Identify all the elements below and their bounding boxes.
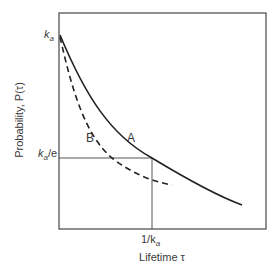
plot-frame [59,13,266,229]
curve-a-label: A [127,131,135,145]
y-tick-ka: ka [44,28,55,43]
x-axis-title: Lifetime τ [139,251,186,263]
curve-b [60,37,172,185]
x-tick-1-over-ka: 1/ka [141,233,161,248]
curve-a [60,35,242,205]
y-tick-ka-over-e: ka/e [38,147,57,162]
y-axis-title: Probability, P(τ) [13,82,25,158]
chart: A B ka ka/e 1/ka Lifetime τ Probability,… [0,0,277,267]
curve-b-label: B [86,131,94,145]
